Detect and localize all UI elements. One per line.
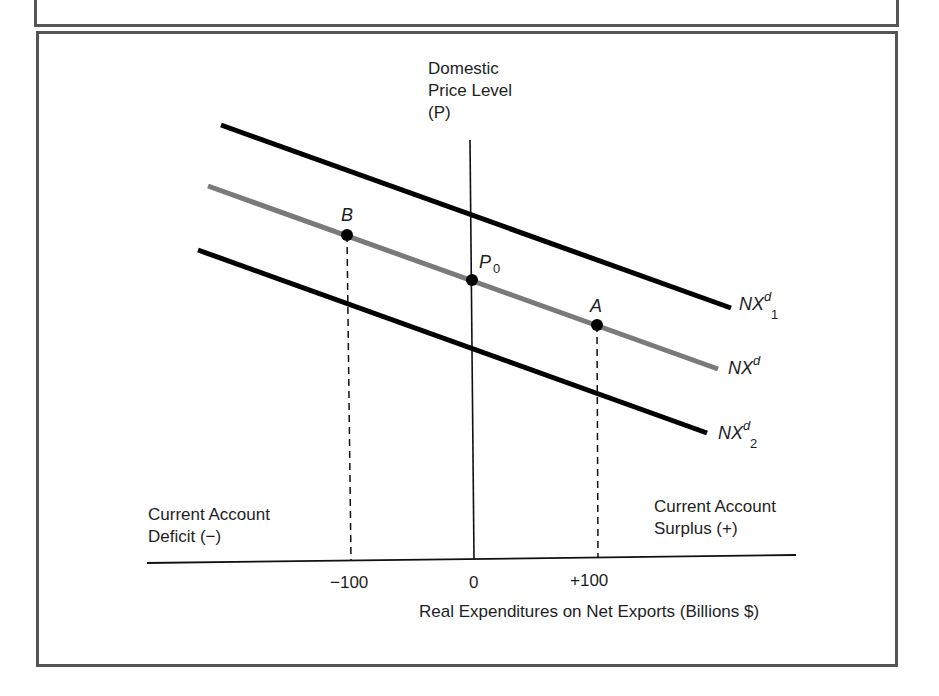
y-axis-label-line2: Price Level: [428, 80, 512, 102]
curve-nx1d-sup: d: [764, 289, 771, 304]
y-axis-label-line1: Domestic: [428, 58, 499, 80]
deficit-label-line1: Current Account: [148, 504, 270, 526]
point-p0-label: P0: [479, 252, 500, 273]
y-axis-label-line3: (P): [428, 102, 451, 124]
point-p0-subscript: 0: [493, 261, 500, 276]
curve-nx2d-text: NX: [718, 423, 743, 443]
point-a: [591, 319, 603, 331]
x-tick-neg100: −100: [330, 573, 368, 593]
curve-nx2d-label: NXd2: [718, 420, 750, 444]
x-tick-0: 0: [469, 573, 478, 593]
x-tick-pos100: +100: [570, 571, 608, 591]
point-p0-letter: P: [479, 252, 491, 272]
guide-b: [347, 235, 351, 560]
x-axis: [147, 555, 796, 563]
curve-nx1d-label: NXd1: [739, 291, 771, 315]
curve-nx2d-sub: 2: [750, 436, 757, 451]
x-axis-label: Real Expenditures on Net Exports (Billio…: [419, 601, 759, 623]
surplus-label-line2: Surplus (+): [654, 518, 738, 540]
deficit-label-line2: Deficit (−): [148, 526, 221, 548]
curve-nxd-sup: d: [753, 353, 760, 368]
point-b-label: B: [341, 205, 353, 226]
point-p0: [466, 274, 478, 286]
curve-nx2d-sup: d: [743, 418, 750, 433]
guide-a: [597, 325, 598, 557]
point-a-label: A: [590, 296, 602, 317]
curve-nx2d: [198, 250, 707, 433]
point-b: [341, 229, 353, 241]
surplus-label-line1: Current Account: [654, 496, 776, 518]
curve-nx1d-sub: 1: [771, 307, 778, 322]
curve-nxd-label: NXd: [728, 355, 760, 379]
curve-nx1d-text: NX: [739, 294, 764, 314]
curve-nxd-text: NX: [728, 358, 753, 378]
